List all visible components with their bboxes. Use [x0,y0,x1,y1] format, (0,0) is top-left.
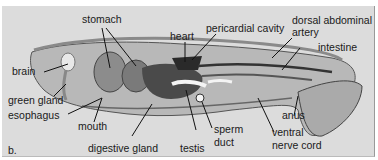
label-intestine: intestine [318,42,357,53]
label-sperm-duct-line1: sperm [214,124,243,135]
label-green-gland: green gland [8,95,63,106]
label-ventral-nerve-cord-line1: ventral [272,127,304,138]
label-testis: testis [180,143,205,154]
label-esophagus: esophagus [8,110,59,121]
label-heart: heart [170,31,194,42]
label-sperm-duct-line2: duct [214,137,234,148]
panel-label: b. [8,145,17,156]
label-ventral-nerve-cord-line2: nerve cord [272,140,322,151]
label-dorsal-abdominal-artery-line2: artery [292,27,319,38]
label-stomach: stomach [82,14,122,25]
crayfish-anatomy-figure: stomach heart pericardial cavity dorsal … [2,6,375,157]
label-pericardial-cavity: pericardial cavity [206,23,284,34]
label-brain: brain [12,66,35,77]
label-mouth: mouth [78,121,107,132]
label-digestive-gland: digestive gland [88,143,158,154]
label-dorsal-abdominal-artery-line1: dorsal abdominal [292,15,372,26]
label-anus: anus [282,110,305,121]
